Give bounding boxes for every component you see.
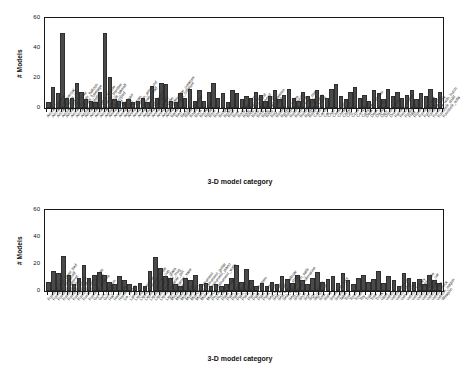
- x-tick-mark: [418, 109, 419, 112]
- x-tick-mark: [180, 292, 181, 295]
- x-tick-mark: [261, 109, 262, 112]
- x-tick-mark: [93, 292, 94, 295]
- y-tick-label: 40: [24, 233, 40, 239]
- x-tick-mark: [394, 109, 395, 112]
- x-tick-mark: [294, 109, 295, 112]
- bar: [353, 87, 357, 108]
- x-tick-mark: [56, 109, 57, 112]
- bar: [230, 90, 234, 108]
- x-tick-mark: [375, 109, 376, 112]
- y-tick-label: 20: [24, 74, 40, 80]
- x-tick-mark: [318, 109, 319, 112]
- x-tick-mark: [299, 109, 300, 112]
- x-tick-mark: [88, 292, 89, 295]
- bar: [371, 279, 376, 291]
- x-tick-mark: [288, 292, 289, 295]
- y-tick-label: 20: [24, 260, 40, 266]
- x-tick-mark: [370, 292, 371, 295]
- x-tick-mark: [137, 109, 138, 112]
- y-tick-label: 60: [24, 14, 40, 20]
- x-tick-mark: [75, 109, 76, 112]
- bar: [305, 284, 310, 291]
- x-tick-mark: [252, 292, 253, 295]
- x-tick-mark: [356, 109, 357, 112]
- y-axis-label-bottom: # Models: [16, 236, 23, 265]
- x-tick-mark: [94, 109, 95, 112]
- x-tick-mark: [180, 109, 181, 112]
- y-tick-label: 60: [24, 206, 40, 212]
- bar: [235, 93, 239, 108]
- x-tick-mark: [323, 109, 324, 112]
- x-tick-mark: [98, 292, 99, 295]
- x-tick-mark: [144, 292, 145, 295]
- x-tick-mark: [134, 292, 135, 295]
- chart-panel-bottom: # Models 60 40 20 0 Furniture_bed_chest_…: [0, 195, 467, 387]
- x-tick-mark: [421, 292, 422, 295]
- x-tick-mark: [61, 109, 62, 112]
- bar: [381, 283, 386, 291]
- x-tick-mark: [47, 292, 48, 295]
- x-tick-mark: [165, 292, 166, 295]
- x-tick-mark: [216, 292, 217, 295]
- x-tick-mark: [62, 292, 63, 295]
- x-tick-mark: [218, 109, 219, 112]
- x-tick-mark: [99, 109, 100, 112]
- chart-panel-top: # Models 60 40 20 0 Aircraft_biplaneAirc…: [0, 0, 467, 195]
- x-tick-mark: [342, 109, 343, 112]
- x-tick-mark: [104, 109, 105, 112]
- x-tick-mark: [298, 292, 299, 295]
- x-tick-mark: [304, 109, 305, 112]
- x-tick-mark: [223, 109, 224, 112]
- x-tick-mark: [399, 109, 400, 112]
- x-tick-mark: [247, 292, 248, 295]
- x-tick-mark: [80, 109, 81, 112]
- x-tick-mark: [103, 292, 104, 295]
- x-tick-mark: [361, 109, 362, 112]
- x-tick-mark: [293, 292, 294, 295]
- x-tick-mark: [262, 292, 263, 295]
- bar: [334, 84, 338, 108]
- bar: [361, 275, 366, 291]
- x-tick-mark: [303, 292, 304, 295]
- figure-container: # Models 60 40 20 0 Aircraft_biplaneAirc…: [0, 0, 467, 387]
- x-tick-mark: [365, 292, 366, 295]
- x-tick-mark: [442, 109, 443, 112]
- x-tick-mark: [206, 292, 207, 295]
- bar: [329, 89, 333, 109]
- x-tick-mark: [139, 292, 140, 295]
- y-tick-label: 40: [24, 44, 40, 50]
- x-tick-mark: [237, 109, 238, 112]
- x-tick-mark: [334, 292, 335, 295]
- x-tick-mark: [275, 109, 276, 112]
- x-axis-title-top: 3-D model category: [160, 178, 320, 185]
- x-tick-mark: [57, 292, 58, 295]
- x-tick-mark: [242, 109, 243, 112]
- x-tick-mark: [339, 292, 340, 295]
- x-tick-mark: [175, 109, 176, 112]
- x-tick-mark: [129, 292, 130, 295]
- x-tick-mark: [194, 109, 195, 112]
- x-tick-mark: [52, 292, 53, 295]
- x-tick-mark: [411, 292, 412, 295]
- bar: [366, 282, 371, 291]
- x-tick-mark: [175, 292, 176, 295]
- bar: [46, 102, 50, 108]
- x-tick-mark: [256, 109, 257, 112]
- y-tick-label: 0: [24, 104, 40, 110]
- x-tick-mark: [337, 109, 338, 112]
- y-axis-label-top: # Models: [16, 49, 23, 78]
- bar: [216, 98, 220, 109]
- x-tick-mark: [170, 292, 171, 295]
- bar: [376, 271, 381, 291]
- x-tick-mark: [161, 109, 162, 112]
- x-tick-mark: [329, 292, 330, 295]
- x-tick-mark: [204, 109, 205, 112]
- x-tick-mark: [280, 109, 281, 112]
- bar: [46, 282, 51, 291]
- x-tick-mark: [211, 292, 212, 295]
- x-tick-mark: [257, 292, 258, 295]
- x-tick-mark: [380, 109, 381, 112]
- x-tick-mark: [142, 109, 143, 112]
- x-tick-mark: [406, 292, 407, 295]
- x-tick-mark: [199, 109, 200, 112]
